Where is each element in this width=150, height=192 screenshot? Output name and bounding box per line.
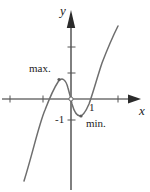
x-tick-label-one: 1 <box>89 102 95 113</box>
local-minimum-label: min. <box>86 118 106 129</box>
plot-svg <box>0 0 150 192</box>
y-axis-label: y <box>60 4 66 17</box>
local-maximum-point <box>57 78 60 81</box>
y-tick-label-negative-one: -1 <box>55 114 64 125</box>
local-maximum-label: max. <box>29 63 51 74</box>
y-axis-arrowhead <box>67 10 75 28</box>
figure-canvas: y x max. min. -1 1 <box>0 0 150 192</box>
origin-point <box>69 97 73 101</box>
x-axis-label: x <box>139 104 145 117</box>
local-minimum-point <box>79 114 82 117</box>
